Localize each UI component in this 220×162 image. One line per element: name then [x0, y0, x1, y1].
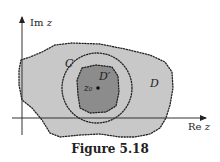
diagram-canvas: Im z Re z C D D′ z₀: [0, 0, 220, 162]
region-d-prime-label: D′: [98, 70, 111, 83]
complex-plane-figure: Im z Re z C D D′ z₀ Figure 5.18: [0, 0, 220, 162]
point-z0-dot: [96, 86, 100, 90]
figure-caption: Figure 5.18: [0, 142, 220, 156]
y-axis-label: Im z: [30, 17, 53, 28]
circle-c-label: C: [65, 57, 74, 70]
x-axis-label: Re z: [188, 121, 211, 132]
point-z0-label: z₀: [83, 83, 93, 93]
region-d-label: D: [149, 77, 159, 90]
